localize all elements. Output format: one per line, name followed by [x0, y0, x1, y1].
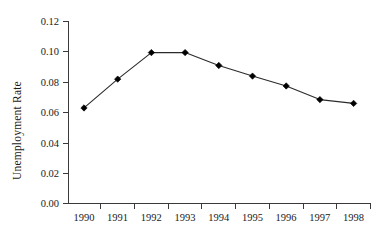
y-tick-label: 0.04 — [41, 138, 60, 149]
y-axis-title: Unemployment Rate — [11, 81, 24, 180]
y-tick-label: 0.08 — [41, 77, 59, 88]
x-tick-label: 1998 — [343, 212, 364, 223]
y-tick-label: 0.02 — [41, 168, 59, 179]
y-tick-label: 0.10 — [41, 46, 59, 57]
x-tick-label: 1994 — [208, 212, 230, 223]
x-tick-label: 1996 — [276, 212, 297, 223]
x-tick-label: 1993 — [175, 212, 196, 223]
x-tick-label: 1991 — [107, 212, 128, 223]
y-tick-label: 0.06 — [41, 107, 59, 118]
y-tick-label: 0.00 — [41, 198, 59, 209]
y-tick-label: 0.12 — [41, 16, 59, 27]
line-chart: Unemployment Rate 0.12 0.10 0.08 0.06 0.… — [0, 0, 384, 245]
x-tick-label: 1997 — [309, 212, 330, 223]
x-tick-label: 1995 — [242, 212, 263, 223]
x-tick-label: 1990 — [74, 212, 95, 223]
x-tick-label: 1992 — [141, 212, 162, 223]
chart-canvas: Unemployment Rate 0.12 0.10 0.08 0.06 0.… — [0, 0, 384, 245]
